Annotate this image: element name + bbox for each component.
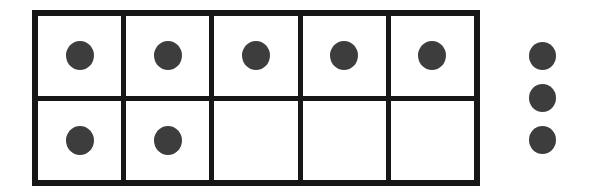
ten-frame-row-bottom xyxy=(38,96,474,181)
ten-frame-cell-4[interactable] xyxy=(298,16,386,96)
counter-dot-icon[interactable] xyxy=(66,41,94,70)
loose-counter-dot-icon[interactable] xyxy=(529,42,556,70)
ten-frame-cell-8[interactable] xyxy=(209,101,297,181)
ten-frame-cell-9[interactable] xyxy=(298,101,386,181)
ten-frame-row-top xyxy=(38,16,474,96)
ten-frame-cell-10[interactable] xyxy=(386,101,474,181)
ten-frame-cell-6[interactable] xyxy=(38,101,121,181)
counter-dot-icon[interactable] xyxy=(330,41,358,70)
counter-dot-icon[interactable] xyxy=(154,41,182,70)
counter-dot-icon[interactable] xyxy=(154,126,182,155)
loose-counter-dot-icon[interactable] xyxy=(529,126,556,154)
counter-dot-icon[interactable] xyxy=(242,41,270,70)
loose-counter-dot-icon[interactable] xyxy=(529,84,556,112)
ten-frame-cell-3[interactable] xyxy=(209,16,297,96)
counter-dot-icon[interactable] xyxy=(66,126,94,155)
ten-frame-cell-2[interactable] xyxy=(121,16,209,96)
ten-frame-cell-1[interactable] xyxy=(38,16,121,96)
ten-frame-cell-5[interactable] xyxy=(386,16,474,96)
ten-frame-cell-7[interactable] xyxy=(121,101,209,181)
ten-frame-grid xyxy=(32,10,480,186)
worksheet-canvas xyxy=(0,0,590,194)
counter-dot-icon[interactable] xyxy=(418,41,446,70)
loose-counters-group xyxy=(528,42,556,154)
